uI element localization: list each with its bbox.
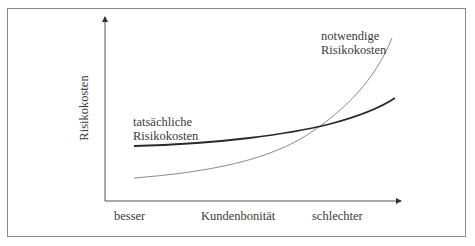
actual-curve-label-line2: Risikokosten [133,129,198,143]
x-left-label: besser [114,209,145,223]
required-curve-label-line1: notwendige [321,29,386,43]
required-curve-label: notwendige Risikokosten [321,29,386,57]
required-curve-label-line2: Risikokosten [321,43,386,57]
required-risk-cost-curve [134,38,392,178]
actual-curve-label: tatsächliche Risikokosten [133,115,198,143]
x-axis-label: Kundenbonität [201,209,275,223]
x-right-label: schlechter [312,209,363,223]
y-axis-label: Risikokosten [77,75,92,140]
actual-curve-label-line1: tatsächliche [133,115,198,129]
